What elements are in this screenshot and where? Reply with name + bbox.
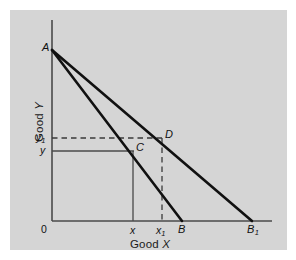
point-label-a: A	[42, 42, 49, 53]
point-label-b1-sub: 1	[255, 228, 259, 237]
point-label-b: B	[178, 224, 185, 235]
x-tick-label-x1-sub: 1	[161, 229, 165, 238]
point-label-b1: B1	[247, 224, 259, 235]
x-tick-label-x: x	[130, 225, 135, 236]
figure-root: Good Y Good X 0 A B B1 C D x x1 y1 y	[0, 0, 296, 260]
point-label-d: D	[165, 129, 173, 140]
x-axis-title-var: X	[162, 238, 170, 250]
y-tick-label-y: y	[40, 145, 45, 156]
y-axis-title-var: Y	[33, 102, 45, 110]
origin-label: 0	[41, 224, 47, 235]
x-axis-title: Good X	[110, 238, 190, 250]
budget-line-ab	[52, 50, 182, 221]
x-axis-title-prefix: Good	[130, 238, 162, 250]
x-tick-label-x1: x1	[156, 225, 165, 236]
y-tick-label-y1: y1	[36, 132, 45, 143]
point-label-c: C	[136, 142, 144, 153]
point-label-b1-base: B	[247, 223, 254, 235]
budget-line-ab1	[52, 50, 252, 221]
